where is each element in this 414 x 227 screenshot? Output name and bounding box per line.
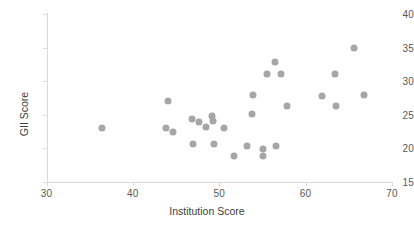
x-tick-label: 40 bbox=[127, 188, 139, 199]
data-point bbox=[249, 91, 256, 98]
y-tick-label: 20 bbox=[390, 143, 414, 154]
y-tick-label: 30 bbox=[390, 76, 414, 87]
x-tick-mark bbox=[133, 182, 134, 186]
data-point bbox=[271, 59, 278, 66]
data-point bbox=[210, 117, 217, 124]
data-point bbox=[203, 123, 210, 130]
x-tick-mark bbox=[306, 182, 307, 186]
data-point bbox=[195, 119, 202, 126]
y-axis-title: GII Score bbox=[18, 91, 30, 135]
data-point bbox=[165, 97, 172, 104]
data-point bbox=[162, 124, 169, 131]
data-point bbox=[277, 71, 284, 78]
data-point bbox=[211, 141, 218, 148]
scatter-chart: GII Score Institution Score 152025303540… bbox=[0, 0, 414, 227]
y-tick-label: 40 bbox=[390, 9, 414, 20]
data-point bbox=[190, 141, 197, 148]
plot-area bbox=[47, 14, 393, 182]
x-tick-label: 50 bbox=[213, 188, 225, 199]
data-point bbox=[284, 103, 291, 110]
data-point bbox=[319, 92, 326, 99]
x-tick-mark bbox=[47, 182, 48, 186]
data-point bbox=[169, 128, 176, 135]
data-point bbox=[249, 111, 256, 118]
data-point bbox=[230, 153, 237, 160]
data-point bbox=[331, 70, 338, 77]
x-axis-title: Institution Score bbox=[0, 205, 414, 217]
data-point bbox=[243, 142, 250, 149]
x-tick-mark bbox=[219, 182, 220, 186]
data-point bbox=[98, 125, 105, 132]
x-tick-mark bbox=[392, 182, 393, 186]
data-point bbox=[260, 153, 267, 160]
data-point bbox=[361, 91, 368, 98]
x-tick-label: 30 bbox=[41, 188, 53, 199]
x-tick-label: 60 bbox=[300, 188, 312, 199]
data-point bbox=[220, 125, 227, 132]
data-point bbox=[273, 142, 280, 149]
y-tick-label: 35 bbox=[390, 42, 414, 53]
y-tick-label: 15 bbox=[390, 177, 414, 188]
data-point bbox=[350, 45, 357, 52]
data-point bbox=[260, 146, 267, 153]
data-point bbox=[263, 71, 270, 78]
x-tick-label: 70 bbox=[386, 188, 398, 199]
data-point bbox=[332, 103, 339, 110]
y-tick-label: 25 bbox=[390, 109, 414, 120]
